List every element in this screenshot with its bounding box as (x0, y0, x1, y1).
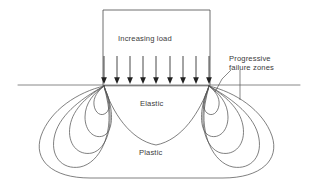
load-arrow (127, 56, 133, 84)
label-progressive-failure-line1: Progressive (229, 54, 271, 63)
label-increasing-load: Increasing load (118, 34, 172, 43)
label-elastic-zone: Elastic (140, 99, 163, 108)
diagram-canvas: Increasing load Progressivefailure zones… (0, 0, 312, 190)
label-progressive-failure-line2: failure zones (229, 63, 274, 72)
load-arrow (167, 56, 173, 84)
diagram-svg (0, 0, 312, 190)
progressive-failure-zone-left (54, 86, 112, 167)
footing-outline (103, 10, 210, 85)
load-arrow (193, 56, 199, 84)
load-arrow-group (101, 56, 212, 84)
elastic-zone-boundary (104, 86, 209, 145)
load-arrow (114, 56, 120, 84)
load-arrow (101, 56, 107, 84)
label-progressive-failure-zones: Progressivefailure zones (229, 54, 274, 73)
load-arrow (140, 56, 146, 84)
progressive-failure-zone-right (201, 86, 259, 167)
load-arrow (153, 56, 159, 84)
ground-line (18, 85, 300, 86)
label-plastic-zone: Plastic (139, 148, 162, 157)
load-arrow (206, 56, 212, 84)
load-arrow (180, 56, 186, 84)
